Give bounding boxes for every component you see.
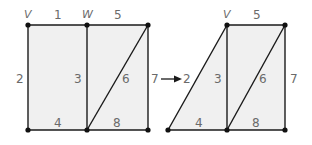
left-edge-label-4: 4 [54, 116, 62, 130]
right-edge-label-2: 2 [183, 72, 191, 86]
left-graph-face [28, 25, 148, 130]
left-vertex-bottom-left [25, 127, 30, 132]
right-vertex-bottom-right [282, 127, 287, 132]
right-edge-label-4: 4 [195, 116, 203, 130]
left-vertex-w [84, 22, 89, 27]
left-vertex-label-v: V [24, 8, 33, 21]
left-vertex-label-w: W [82, 8, 94, 21]
transition-arrow [161, 76, 182, 83]
left-edge-label-6: 6 [122, 72, 130, 86]
right-vertex-bottom-left [165, 127, 170, 132]
left-graph: V W 1 5 2 3 6 7 4 8 [16, 8, 159, 133]
right-edge-label-7: 7 [290, 72, 298, 86]
left-vertex-top-right [145, 22, 150, 27]
right-vertex-label-v: V [223, 8, 232, 21]
right-vertex-v [224, 22, 229, 27]
right-graph: V 5 2 3 6 7 4 8 [165, 8, 297, 133]
right-edge-label-5: 5 [253, 8, 261, 22]
left-edge-label-8: 8 [113, 116, 121, 130]
left-edge-label-2: 2 [16, 72, 24, 86]
left-vertex-bottom-middle [84, 127, 89, 132]
right-edge-label-3: 3 [214, 72, 222, 86]
left-edge-label-7: 7 [151, 72, 159, 86]
graph-transformation-diagram: V W 1 5 2 3 6 7 4 8 V 5 2 3 6 7 4 [0, 0, 312, 145]
left-vertex-bottom-right [145, 127, 150, 132]
arrow-head-icon [174, 76, 182, 83]
left-edge-label-3: 3 [74, 72, 82, 86]
right-edge-label-8: 8 [252, 116, 260, 130]
left-edge-label-1: 1 [54, 8, 62, 22]
right-edge-label-6: 6 [259, 72, 267, 86]
left-vertex-v [25, 22, 30, 27]
right-vertex-bottom-middle [224, 127, 229, 132]
right-vertex-top-right [282, 22, 287, 27]
left-edge-label-5: 5 [114, 8, 122, 22]
